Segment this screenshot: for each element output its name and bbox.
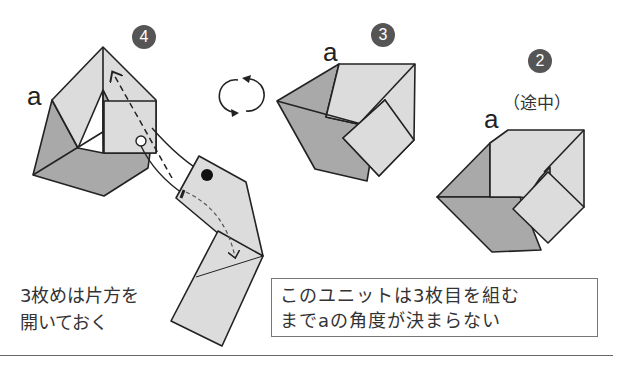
box-note-line-1: このユニットは3枚目を組む — [280, 283, 589, 308]
third-unit-instruction: 3枚めは片方を 開いておく — [20, 282, 139, 336]
angle-note-box: このユニットは3枚目を組む までaの角度が決まらない — [271, 278, 598, 337]
white-dot-marker — [136, 136, 146, 146]
box-note-line-2: までaの角度が決まらない — [280, 308, 589, 333]
rotate-arrows-icon — [219, 75, 264, 117]
step4-model — [33, 47, 156, 196]
step-3-badge: 3 — [371, 23, 395, 47]
black-dot-marker — [201, 169, 213, 181]
instruction-line-1: 3枚めは片方を — [20, 282, 139, 309]
step-2-badge: 2 — [528, 49, 552, 73]
step3-model — [277, 64, 415, 181]
step2-model — [437, 130, 584, 252]
step2-label-a: a — [484, 106, 498, 132]
third-unit — [171, 156, 263, 346]
step4-label-a: a — [27, 83, 41, 109]
step3-label-a: a — [323, 39, 337, 65]
in-progress-note: （途中） — [503, 89, 571, 114]
bottom-divider — [0, 355, 613, 356]
step-4-badge: 4 — [132, 25, 156, 49]
instruction-line-2: 開いておく — [20, 309, 139, 336]
